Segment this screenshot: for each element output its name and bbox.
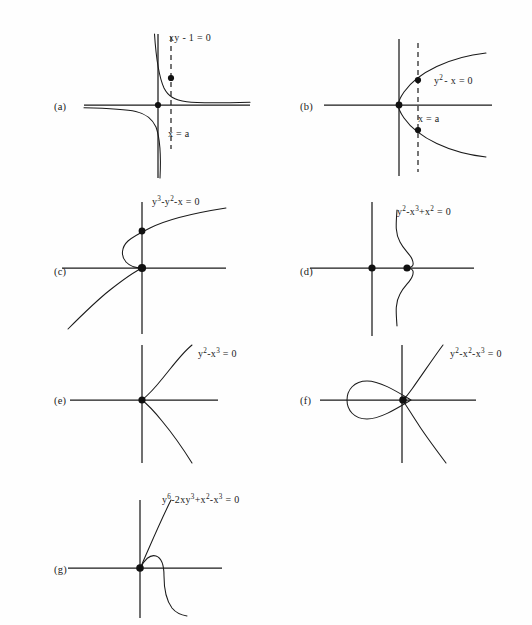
panel-a-equation: xy - 1 = 0 (169, 32, 211, 43)
figure-root: (a) xy - 1 = 0 x = a (b) y2 - x = 0 x = … (0, 0, 532, 625)
origin-cusp-marker (138, 396, 145, 403)
panel-b-aux-label: x = a (418, 113, 440, 124)
upper-intersection-marker (415, 77, 421, 83)
panel-f: (f) y2-x2-x3 = 0 (300, 345, 515, 485)
panel-g-equation: y6-2xy3+x2-x3 = 0 (162, 494, 240, 505)
panel-c-equation: y3-y2-x = 0 (152, 196, 200, 207)
panel-g-plot (54, 492, 269, 622)
origin-marker (396, 102, 403, 109)
panel-e-equation: y2-x3 = 0 (198, 348, 237, 359)
panel-b-tag: (b) (300, 101, 313, 112)
cusp-curve (142, 345, 192, 463)
origin-marker (138, 264, 146, 272)
panel-b-equation: y2 - x = 0 (434, 75, 473, 86)
upper-marker (139, 228, 146, 235)
origin-tacnode-marker (136, 564, 144, 572)
tacnode-upper-branch (141, 500, 172, 568)
tacnode-hook-branch (141, 556, 188, 616)
panel-d: (d) y2-x3+x2 = 0 (300, 196, 515, 346)
lower-intersection-marker (415, 127, 421, 133)
panel-c-tag: (c) (54, 266, 66, 277)
panel-d-equation: y2-x3+x2 = 0 (397, 206, 451, 217)
panel-a-tag: (a) (54, 101, 66, 112)
panel-g-tag: (g) (54, 564, 67, 575)
panel-e-plot (54, 345, 264, 485)
panel-f-equation: y2-x2-x3 = 0 (450, 348, 502, 359)
hyperbola-lower-branch (84, 108, 160, 178)
origin-node-marker (399, 396, 407, 404)
panel-c-plot (54, 196, 264, 336)
panel-a-aux-label: x = a (168, 128, 190, 139)
panel-a-plot (54, 26, 264, 186)
panel-e: (e) y2-x3 = 0 (54, 345, 264, 485)
hyperbola-upper-branch (155, 34, 251, 103)
panel-f-plot (300, 345, 515, 485)
panel-f-tag: (f) (300, 395, 311, 406)
panel-a: (a) xy - 1 = 0 x = a (54, 26, 264, 186)
panel-d-tag: (d) (300, 266, 313, 277)
node-open-branches (403, 345, 447, 463)
panel-c: (c) y3-y2-x = 0 (54, 196, 264, 336)
intersection-marker (168, 75, 174, 81)
panel-b-plot (300, 26, 510, 186)
panel-d-plot (300, 196, 515, 346)
origin-acnode-marker (368, 264, 375, 271)
panel-b: (b) y2 - x = 0 x = a (300, 26, 510, 186)
panel-g: (g) y6-2xy3+x2-x3 = 0 (54, 492, 269, 622)
panel-e-tag: (e) (54, 395, 66, 406)
branch-point-marker (403, 264, 410, 271)
origin-marker (155, 102, 161, 108)
